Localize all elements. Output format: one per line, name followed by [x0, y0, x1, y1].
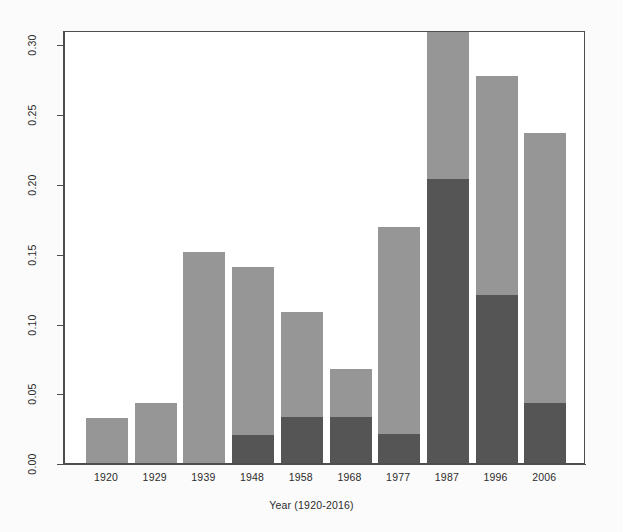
bar-chart: 0.00 0.05 0.10 0.15 0.20 0.25 0.30 19201…	[0, 0, 623, 532]
bar-segment-upper	[476, 76, 518, 295]
x-axis-line	[64, 464, 586, 465]
x-tick-label-1939: 1939	[182, 471, 224, 483]
y-tick-mark	[57, 325, 63, 326]
bar-1996[interactable]	[476, 76, 518, 463]
x-tick-label-1987: 1987	[426, 471, 468, 483]
x-tick-label-1929: 1929	[134, 471, 176, 483]
bar-segment-upper	[86, 418, 128, 463]
bar-segment-upper	[330, 369, 372, 416]
bar-segment-lower	[281, 417, 323, 463]
y-tick-mark	[57, 115, 63, 116]
y-tick-mark	[57, 255, 63, 256]
y-tick-label-text: 0.25	[26, 104, 38, 125]
y-tick-mark	[57, 45, 63, 46]
bar-segment-lower	[378, 434, 420, 463]
y-tick-label: 0.25	[10, 109, 54, 121]
bar-segment-lower	[330, 417, 372, 463]
y-tick-label: 0.15	[10, 249, 54, 261]
y-tick-label-text: 0.15	[26, 244, 38, 265]
x-tick-label-1920: 1920	[85, 471, 127, 483]
bar-segment-lower	[476, 295, 518, 463]
y-tick-label: 0.00	[10, 458, 54, 470]
y-tick-label-text: 0.30	[26, 34, 38, 55]
bar-segment-lower	[427, 179, 469, 463]
bar-1958[interactable]	[281, 312, 323, 463]
y-tick-label-text: 0.00	[26, 453, 38, 474]
bar-2006[interactable]	[524, 133, 566, 463]
bar-segment-upper	[281, 312, 323, 417]
bar-1948[interactable]	[232, 267, 274, 463]
y-tick-label: 0.30	[10, 39, 54, 51]
bar-segment-upper	[183, 252, 225, 463]
bar-segment-lower	[524, 403, 566, 463]
bar-segment-upper	[135, 403, 177, 463]
x-tick-label-1996: 1996	[475, 471, 517, 483]
y-tick-label: 0.10	[10, 319, 54, 331]
bar-1977[interactable]	[378, 227, 420, 463]
bar-1939[interactable]	[183, 252, 225, 463]
bar-segment-upper	[378, 227, 420, 434]
x-axis-title: Year (1920-2016)	[0, 499, 623, 511]
x-tick-label-1948: 1948	[231, 471, 273, 483]
y-tick-label-text: 0.20	[26, 174, 38, 195]
y-tick-label: 0.05	[10, 388, 54, 400]
x-tick-label-2006: 2006	[523, 471, 565, 483]
x-tick-label-1968: 1968	[329, 471, 371, 483]
bar-segment-upper	[232, 267, 274, 435]
bar-1929[interactable]	[135, 403, 177, 463]
y-tick-mark	[57, 464, 63, 465]
plot-area	[64, 31, 585, 464]
bar-1920[interactable]	[86, 418, 128, 463]
bar-segment-upper	[427, 31, 469, 179]
y-tick-label-text: 0.05	[26, 383, 38, 404]
bar-1968[interactable]	[330, 369, 372, 463]
bar-segment-upper	[524, 133, 566, 403]
bar-segment-lower	[232, 435, 274, 463]
y-tick-label-text: 0.10	[26, 314, 38, 335]
x-tick-label-1977: 1977	[377, 471, 419, 483]
y-tick-mark	[57, 394, 63, 395]
y-tick-label: 0.20	[10, 179, 54, 191]
x-tick-label-1958: 1958	[280, 471, 322, 483]
y-tick-mark	[57, 185, 63, 186]
bar-1987[interactable]	[427, 31, 469, 463]
